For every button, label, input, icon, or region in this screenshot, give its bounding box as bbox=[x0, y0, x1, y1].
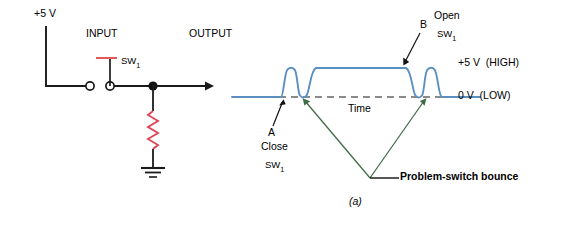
point-a-switch-subscript: 1 bbox=[280, 165, 284, 174]
figure-caption: (a) bbox=[349, 196, 362, 207]
point-a-switch-text: SW bbox=[265, 159, 280, 170]
switch-left-terminal bbox=[86, 82, 94, 90]
signal-trace bbox=[232, 68, 480, 98]
point-b-switch-label: SW1 bbox=[437, 24, 456, 43]
high-level-value: +5 V bbox=[458, 56, 480, 68]
point-a-arrowhead-icon bbox=[279, 99, 286, 105]
switch-bounce-figure: +5 V INPUT OUTPUT SW1 +5 V (HIGH) 0 V (L… bbox=[0, 0, 580, 226]
switch-designator-subscript: 1 bbox=[136, 61, 140, 70]
point-a-switch-label: SW1 bbox=[265, 155, 284, 174]
bounce-leader-left-arrowhead-icon bbox=[303, 98, 311, 105]
point-b-leader-line bbox=[405, 33, 420, 62]
point-b-switch-subscript: 1 bbox=[452, 34, 456, 43]
point-b-action-label: Open bbox=[434, 10, 460, 21]
circuit-diagram bbox=[46, 27, 214, 177]
low-level-label: 0 V (LOW) bbox=[458, 90, 511, 101]
output-arrowhead-icon bbox=[205, 82, 214, 91]
point-a-marker-label: A bbox=[268, 127, 275, 138]
point-b-marker-label: B bbox=[420, 19, 427, 30]
supply-rail-wire bbox=[46, 27, 85, 86]
input-label: INPUT bbox=[86, 28, 118, 39]
bounce-annotation-label: Problem-switch bounce bbox=[400, 171, 518, 182]
switch-designator-label: SW1 bbox=[121, 51, 140, 70]
point-a-action-label: Close bbox=[261, 141, 288, 152]
low-level-value: 0 V bbox=[458, 89, 474, 101]
output-label: OUTPUT bbox=[189, 28, 232, 39]
pulldown-resistor-icon bbox=[148, 111, 158, 149]
point-a-leader-line bbox=[273, 102, 283, 126]
bounce-leader-right bbox=[370, 101, 424, 178]
switch-designator-text: SW bbox=[121, 55, 136, 66]
high-level-label: +5 V (HIGH) bbox=[458, 57, 519, 68]
low-level-state: (LOW) bbox=[480, 89, 511, 101]
supply-voltage-label: +5 V bbox=[34, 8, 56, 19]
point-b-switch-text: SW bbox=[437, 28, 452, 39]
time-axis-label: Time bbox=[348, 103, 371, 114]
high-level-state: (HIGH) bbox=[486, 56, 519, 68]
